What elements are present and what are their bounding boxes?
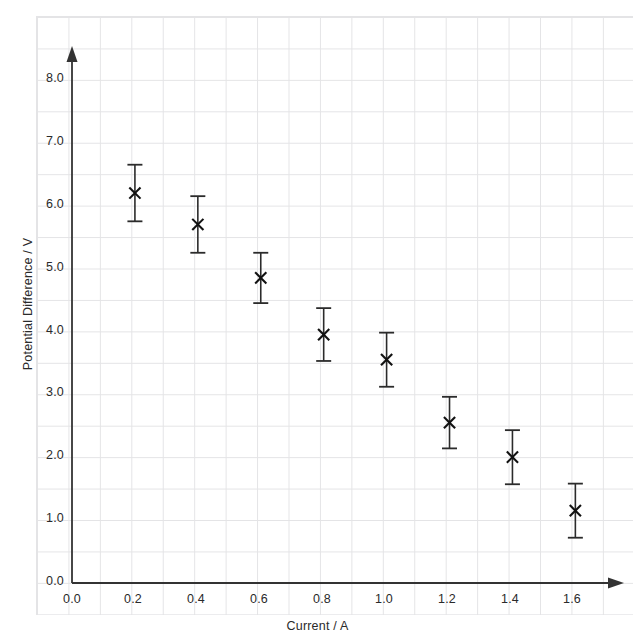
x-tick-label: 1.2 (427, 592, 467, 606)
y-tick-label: 4.0 (30, 323, 64, 337)
x-axis-arrow-icon (608, 578, 624, 589)
y-axis-arrow-icon (67, 46, 78, 62)
scatter-chart: 0.0 1.0 2.0 3.0 4.0 5.0 6.0 7.0 8.0 0.0 … (0, 0, 635, 639)
x-axis-title: Current / A (0, 619, 635, 633)
x-tick-label: 1.4 (490, 592, 530, 606)
y-tick-label: 1.0 (30, 511, 64, 525)
data-point (379, 333, 394, 387)
data-point (190, 196, 205, 253)
y-tick-label: 3.0 (30, 385, 64, 399)
x-tick-label: 1.6 (552, 592, 592, 606)
x-tick-label: 0.4 (176, 592, 216, 606)
data-point (316, 308, 331, 361)
data-point (253, 253, 268, 303)
y-tick-label: 5.0 (30, 260, 64, 274)
data-point (505, 430, 520, 484)
data-series (127, 165, 582, 538)
x-tick-label: 0.8 (302, 592, 342, 606)
plot-area (0, 0, 635, 639)
data-point (568, 484, 583, 538)
x-tick-label: 0.2 (113, 592, 153, 606)
data-point (127, 165, 142, 222)
axes (67, 46, 625, 589)
y-tick-label: 7.0 (30, 134, 64, 148)
y-tick-label: 2.0 (30, 448, 64, 462)
x-tick-label: 0.0 (52, 592, 92, 606)
data-point (442, 397, 457, 449)
y-tick-label: 6.0 (30, 197, 64, 211)
y-tick-label: 0.0 (30, 574, 64, 588)
y-tick-label: 8.0 (30, 71, 64, 85)
y-axis-title: Potential Difference / V (21, 204, 35, 404)
x-tick-label: 1.0 (364, 592, 404, 606)
x-tick-label: 0.6 (239, 592, 279, 606)
